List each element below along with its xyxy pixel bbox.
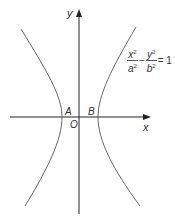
- hyperbola-equation: x2 a2 − y2 b2 = 1: [127, 47, 173, 74]
- origin-label: O: [70, 119, 78, 130]
- minus-operator: −: [139, 55, 145, 66]
- exponent: 2: [152, 63, 155, 69]
- exponent: 2: [152, 49, 155, 55]
- vertex-b-label: B: [88, 106, 95, 117]
- fraction-y-over-b: y2 b2: [146, 47, 157, 74]
- x-axis-label: x: [142, 121, 149, 133]
- fraction-x-over-a: x2 a2: [127, 47, 138, 74]
- y-axis-arrow-icon: [76, 9, 82, 17]
- y-axis-label: y: [66, 7, 74, 19]
- vertex-a-label: A: [64, 106, 72, 117]
- x-axis-arrow-icon: [143, 114, 151, 120]
- exponent: 2: [134, 63, 137, 69]
- hyperbola-diagram: y x A B O: [0, 0, 175, 224]
- exponent: 2: [133, 49, 136, 55]
- equals-one: = 1: [158, 55, 172, 66]
